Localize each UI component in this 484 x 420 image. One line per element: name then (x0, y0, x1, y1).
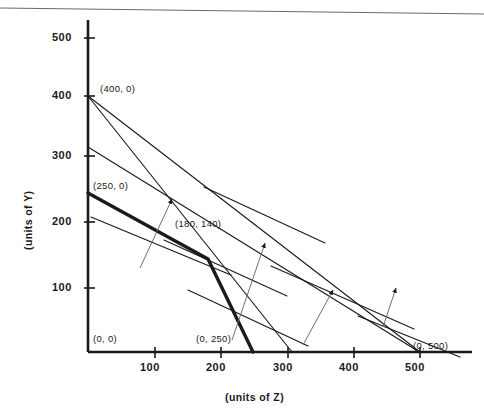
y-axis-title: (units of Y) (22, 191, 34, 250)
y-tick-label-300: 300 (52, 149, 72, 161)
linear-programming-plot (0, 0, 484, 420)
constraint-lines (88, 96, 421, 353)
chart-figure: 500 400 300 200 100 100 200 300 400 500 … (0, 0, 484, 420)
annotation-400-0: (400, 0) (100, 83, 135, 94)
direction-arrow-right (303, 290, 333, 345)
direction-arrow-left (140, 199, 172, 268)
x-tick-label-500: 500 (405, 361, 425, 373)
annotation-0-250: (0, 250) (196, 333, 231, 344)
annotation-0-0: (0, 0) (93, 333, 117, 344)
annotation-180-140: (180, 140) (175, 218, 221, 229)
top-rule (0, 8, 484, 14)
x-axis-title: (units of Z) (225, 391, 284, 403)
annotation-250-0: (250, 0) (93, 180, 128, 191)
x-tick-label-400: 400 (339, 361, 359, 373)
y-axis-ticks (84, 38, 95, 288)
isocost-line-middle (164, 240, 287, 296)
axes (88, 20, 472, 352)
direction-arrow-far-right (383, 288, 396, 327)
isocost-line-upper (204, 187, 325, 243)
annotation-0-500: (0, 500) (413, 340, 448, 351)
y-tick-label-100: 100 (52, 281, 72, 293)
y-tick-label-200: 200 (52, 215, 72, 227)
direction-arrow-center (232, 243, 265, 340)
y-tick-label-400: 400 (52, 89, 72, 101)
constraint-line-1 (88, 96, 420, 352)
x-tick-label-200: 200 (206, 361, 226, 373)
y-tick-label-500: 500 (52, 31, 72, 43)
x-tick-label-300: 300 (273, 361, 293, 373)
constraint-line-2 (88, 147, 421, 353)
x-tick-label-100: 100 (140, 361, 160, 373)
